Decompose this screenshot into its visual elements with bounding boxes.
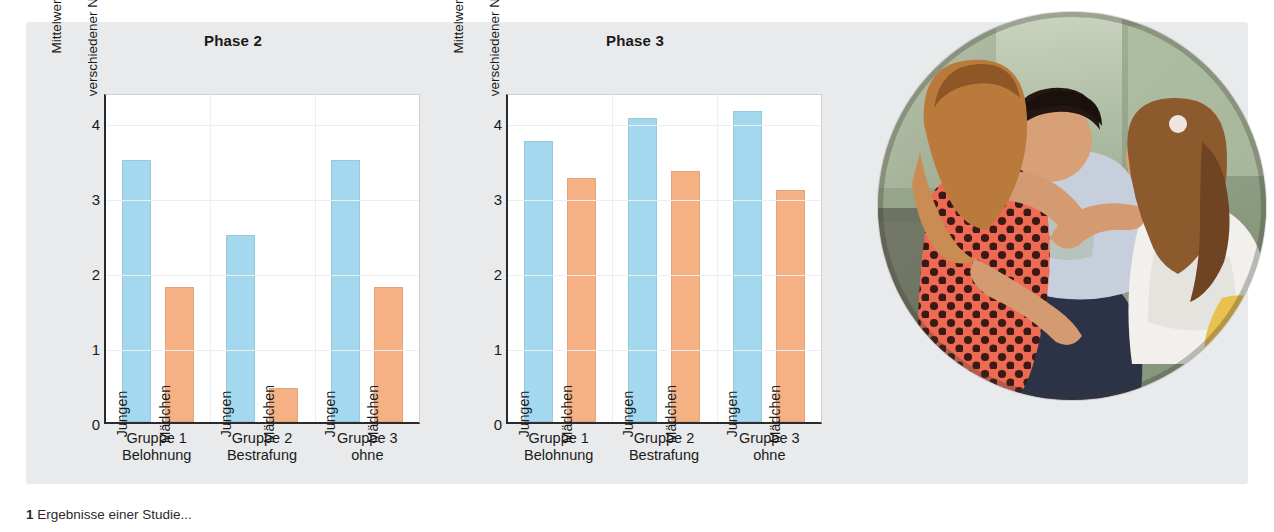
y-tick-label: 0 [78,416,100,433]
bar-jungen[interactable]: Jungen [524,141,553,422]
chart-phase-2: Phase 2 Mittelwert der Ausführung versch… [28,26,438,446]
x-axis-group-label-line-1: Gruppe 1 [506,430,611,447]
y-tick-label: 1 [78,341,100,358]
bar-jungen[interactable]: Jungen [733,111,762,422]
plot-area-phase-3: 01234 JungenMädchenJungenMädchenJungenMä… [506,94,822,424]
x-axis-group-label-line-1: Gruppe 1 [104,430,209,447]
bar-fill [524,141,553,422]
x-axis-labels-phase-3: Gruppe 1BelohnungGruppe 2BestrafungGrupp… [506,430,822,464]
bar-group: JungenMädchen [612,95,716,422]
bar-fill [628,118,657,422]
x-axis-group-label: Gruppe 1Belohnung [506,430,611,464]
x-axis-group-label-line-1: Gruppe 3 [315,430,420,447]
x-axis-group-label: Gruppe 2Bestrafung [209,430,314,464]
bar-group: JungenMädchen [508,95,612,422]
x-axis-group-label-line-1: Gruppe 2 [209,430,314,447]
bar-groups-phase-2: JungenMädchenJungenMädchenJungenMädchen [106,95,419,422]
bar-group: JungenMädchen [106,95,210,422]
bar-jungen[interactable]: Jungen [331,160,360,423]
group-divider [717,95,718,422]
gridline [106,275,419,276]
x-axis-group-label-line-2: Bestrafung [209,447,314,464]
bar-maedchen[interactable]: Mädchen [269,388,298,422]
y-tick-label: 0 [480,416,502,433]
x-axis-group-label: Gruppe 1Belohnung [104,430,209,464]
bar-maedchen[interactable]: Mädchen [165,287,194,422]
x-axis-group-label: Gruppe 3ohne [315,430,420,464]
x-axis-group-label-line-2: Bestrafung [611,447,716,464]
bar-jungen[interactable]: Jungen [122,160,151,423]
bar-fill [122,160,151,423]
gridline [508,275,821,276]
photo-illustration-icon [878,12,1266,400]
x-axis-group-label-line-1: Gruppe 2 [611,430,716,447]
y-tick-label: 4 [78,116,100,133]
x-axis-group-label-line-2: ohne [315,447,420,464]
photo-children-fighting [878,12,1266,400]
figure-caption-number: 1 [26,507,34,522]
y-tick-label: 3 [78,191,100,208]
bar-jungen[interactable]: Jungen [628,118,657,422]
bar-group: JungenMädchen [717,95,821,422]
gridline [106,125,419,126]
gridline [106,200,419,201]
group-divider [315,95,316,422]
figure-caption: 1 Ergebnisse einer Studie... [26,506,1226,524]
gridline [508,350,821,351]
bar-group: JungenMädchen [315,95,419,422]
y-tick-label: 1 [480,341,502,358]
y-axis-label-line-1: Mittelwert der Ausführung [450,0,468,126]
group-divider [210,95,211,422]
x-axis-group-label-line-2: Belohnung [104,447,209,464]
x-axis-labels-phase-2: Gruppe 1BelohnungGruppe 2BestrafungGrupp… [104,430,420,464]
x-axis-group-label: Gruppe 3ohne [717,430,822,464]
y-tick-label: 2 [78,266,100,283]
x-axis-group-label: Gruppe 2Bestrafung [611,430,716,464]
y-tick-label: 3 [480,191,502,208]
y-axis-ticks-phase-2: 01234 [78,94,100,424]
y-axis-label-line-1: Mittelwert der Ausführung [48,0,66,126]
bar-maedchen[interactable]: Mädchen [374,287,403,422]
bar-maedchen[interactable]: Mädchen [567,178,596,422]
bar-fill [733,111,762,422]
bar-fill [331,160,360,423]
y-tick-label: 2 [480,266,502,283]
bar-maedchen[interactable]: Mädchen [776,190,805,423]
group-divider [612,95,613,422]
plot-canvas-phase-3: JungenMädchenJungenMädchenJungenMädchen [506,94,822,424]
chart-phase-3: Phase 3 Mittelwert der Ausführung versch… [430,26,840,446]
gridline [508,125,821,126]
y-tick-label: 4 [480,116,502,133]
bar-groups-phase-3: JungenMädchenJungenMädchenJungenMädchen [508,95,821,422]
figure-page: Phase 2 Mittelwert der Ausführung versch… [0,0,1274,532]
bar-group: JungenMädchen [210,95,314,422]
y-axis-label-phase-3: Mittelwert der Ausführung verschiedener … [432,0,470,126]
gridline [106,350,419,351]
x-axis-group-label-line-1: Gruppe 3 [717,430,822,447]
plot-area-phase-2: 01234 JungenMädchenJungenMädchenJungenMä… [104,94,420,424]
bar-maedchen[interactable]: Mädchen [671,171,700,422]
y-axis-label-phase-2: Mittelwert der Ausführung verschiedener … [30,0,68,126]
x-axis-group-label-line-2: ohne [717,447,822,464]
bar-jungen[interactable]: Jungen [226,235,255,423]
x-axis-group-label-line-2: Belohnung [506,447,611,464]
gridline [508,200,821,201]
plot-canvas-phase-2: JungenMädchenJungenMädchenJungenMädchen [104,94,420,424]
y-axis-ticks-phase-3: 01234 [480,94,502,424]
figure-caption-text: Ergebnisse einer Studie... [37,507,192,522]
